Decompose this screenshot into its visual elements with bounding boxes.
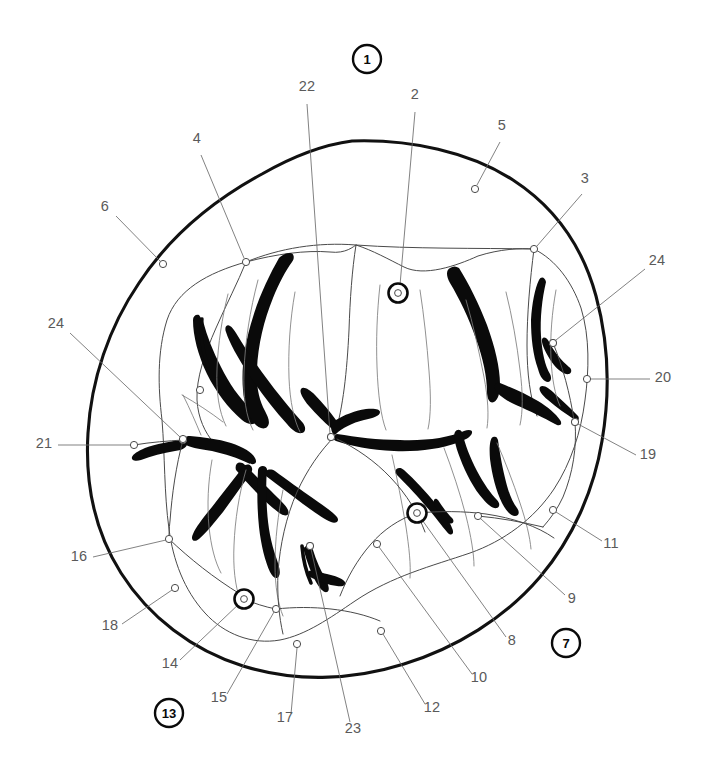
endpoint-dot-marker[interactable]	[272, 605, 279, 612]
callout-number-label: 16	[71, 548, 88, 564]
leader-line	[578, 424, 636, 455]
leader-line	[307, 104, 330, 434]
leader-line	[400, 112, 415, 285]
callout-number-label: 17	[277, 709, 294, 725]
callout-number-label: 21	[36, 435, 53, 451]
endpoint-dot-marker[interactable]	[530, 245, 537, 252]
target-marker[interactable]	[235, 590, 254, 609]
callout-10[interactable]: 10	[373, 540, 487, 685]
endpoint-dot-marker[interactable]	[171, 584, 178, 591]
callout-15[interactable]: 15	[211, 605, 280, 705]
callout-number-label: 22	[299, 78, 316, 94]
callout-19[interactable]: 19	[571, 418, 656, 462]
callout-5[interactable]: 5	[471, 117, 506, 193]
target-marker[interactable]	[389, 284, 408, 303]
callout-24[interactable]: 24	[549, 252, 665, 347]
callout-number-label: 5	[498, 117, 506, 133]
leader-line	[420, 517, 506, 637]
callout-number-label: 23	[345, 720, 362, 736]
endpoint-dot-marker[interactable]	[373, 540, 380, 547]
endpoint-dot-marker[interactable]	[471, 185, 478, 192]
junction-dot-marker[interactable]	[571, 418, 578, 425]
target-inner-ring	[414, 510, 421, 517]
endpoint-dot-marker[interactable]	[549, 506, 556, 513]
circled-reference-label: 13	[162, 706, 176, 721]
endpoint-dot-marker[interactable]	[159, 260, 166, 267]
callout-number-label: 4	[193, 130, 201, 146]
callout-8[interactable]: 8	[408, 504, 517, 649]
occlusal-grooves	[132, 253, 579, 592]
callout-number-label: 6	[101, 198, 109, 214]
endpoint-dot-marker[interactable]	[130, 441, 137, 448]
callout-number-label: 24	[48, 315, 65, 331]
endpoint-dot-marker[interactable]	[377, 627, 384, 634]
junction-dot-marker[interactable]	[179, 435, 186, 442]
callout-22[interactable]: 22	[299, 78, 335, 441]
callout-3[interactable]: 3	[530, 170, 589, 253]
target-inner-ring	[395, 290, 402, 297]
callout-24[interactable]: 24	[48, 315, 187, 444]
endpoint-dot-marker[interactable]	[293, 640, 300, 647]
callout-number-label: 8	[508, 632, 516, 648]
callout-number-label: 18	[102, 617, 119, 633]
leader-line	[537, 194, 582, 246]
leader-line	[227, 612, 274, 694]
leader-line	[201, 155, 244, 258]
occlusal-surface-figure: 2225436242420192111169188141012151723 17…	[0, 0, 704, 778]
callout-20[interactable]: 20	[583, 369, 671, 385]
target-marker[interactable]	[408, 504, 427, 523]
callout-number-label: 24	[649, 252, 666, 268]
callout-16[interactable]: 16	[71, 535, 173, 564]
callout-12[interactable]: 12	[377, 627, 440, 715]
target-inner-ring	[241, 596, 248, 603]
leader-line	[556, 269, 645, 340]
leader-line	[481, 519, 565, 595]
circled-reference-7[interactable]: 7	[552, 629, 580, 657]
leader-line	[116, 216, 160, 261]
callout-number-label: 20	[655, 369, 672, 385]
endpoint-dot-marker[interactable]	[583, 375, 590, 382]
endpoint-dot-marker[interactable]	[474, 512, 481, 519]
callout-number-label: 14	[162, 655, 179, 671]
junction-dot-marker[interactable]	[196, 386, 203, 393]
endpoint-dot-marker[interactable]	[242, 258, 249, 265]
endpoint-dot-marker[interactable]	[165, 535, 172, 542]
callout-number-label: 2	[411, 86, 419, 102]
callout-number-label: 12	[424, 699, 441, 715]
callout-17[interactable]: 17	[277, 640, 301, 725]
junction-dot-marker[interactable]	[306, 542, 313, 549]
circled-reference-1[interactable]: 1	[353, 45, 381, 73]
circled-reference-label: 1	[363, 52, 370, 67]
leader-line	[70, 333, 180, 437]
leader-line	[291, 648, 297, 714]
diagram-canvas: 2225436242420192111169188141012151723 17…	[0, 0, 704, 778]
callout-number-label: 11	[603, 535, 619, 551]
callout-number-label: 15	[211, 689, 228, 705]
callout-number-label: 3	[581, 170, 589, 186]
callout-number-label: 10	[471, 669, 488, 685]
callout-11[interactable]: 11	[549, 506, 618, 551]
circled-reference-13[interactable]: 13	[155, 699, 183, 727]
leader-line	[122, 590, 172, 624]
junction-dot-marker[interactable]	[327, 433, 334, 440]
callout-number-label: 19	[640, 446, 657, 462]
callout-number-label: 9	[568, 590, 576, 606]
junction-dot-marker[interactable]	[549, 339, 556, 346]
circled-reference-label: 7	[562, 636, 569, 651]
callout-6[interactable]: 6	[101, 198, 167, 268]
